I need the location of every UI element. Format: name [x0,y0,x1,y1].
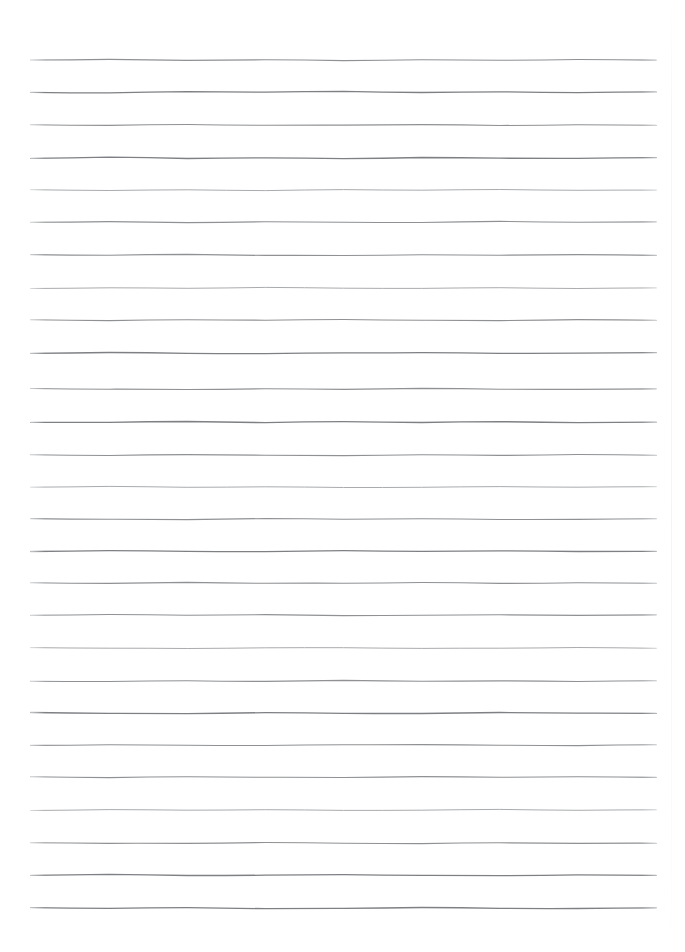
ruled-line [31,743,656,747]
ruled-line [31,453,656,457]
ruled-line [31,841,656,845]
ruled-line [31,517,656,521]
ruled-line [31,485,656,489]
ruled-lines-layer [0,0,685,952]
ruled-line [31,808,656,812]
ruled-line [31,873,656,877]
ruled-line [31,253,656,257]
ruled-line [31,286,656,290]
ruled-line [31,613,656,617]
ruled-line [31,123,656,127]
ruled-line [31,775,656,779]
ruled-line [31,387,656,391]
ruled-line [31,156,656,160]
ruled-line [31,188,656,192]
ruled-line [31,549,656,553]
ruled-line [31,351,656,355]
ruled-line [31,58,656,62]
ruled-line [31,220,656,224]
scanned-page [0,0,685,952]
ruled-line [31,318,656,322]
ruled-line [31,90,656,94]
ruled-line [31,906,656,910]
ruled-line [31,646,656,650]
ruled-line [31,711,656,715]
ruled-line [31,420,656,424]
ruled-line [31,679,656,683]
ruled-line [31,581,656,585]
